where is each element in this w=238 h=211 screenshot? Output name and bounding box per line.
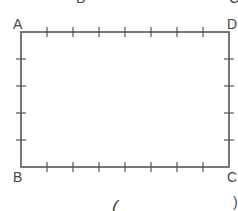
vertex-label-b: B [13,169,22,185]
cropped-label-top-left: B [76,0,85,6]
tick-marks [16,27,234,172]
rectangle-abcd [21,32,229,167]
cropped-label-top-right: C [229,0,238,6]
vertex-label-c: C [227,169,237,185]
rectangle-diagram: B C A D B C ( ) [0,0,238,211]
cropped-paren-right: ) [233,194,238,210]
vertex-label-a: A [13,16,23,32]
cropped-paren-left: ( [112,197,120,211]
vertex-label-d: D [227,16,237,32]
